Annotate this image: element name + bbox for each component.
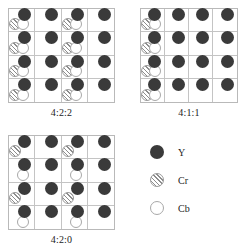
luma-sample-icon (172, 55, 185, 68)
luma-sample-icon (148, 78, 161, 91)
sample-cell (141, 56, 165, 79)
luma-sample-icon (98, 31, 111, 44)
sample-cell (9, 56, 35, 79)
legend: Y Cr Cb (150, 138, 190, 222)
luma-sample-icon (148, 8, 161, 21)
sampling-grid-422 (8, 8, 115, 103)
sample-cell (189, 79, 213, 102)
luma-sample-icon (18, 182, 31, 195)
luma-sample-icon (18, 78, 31, 91)
luma-sample-icon (172, 78, 185, 91)
legend-item-cr: Cr (150, 166, 190, 194)
panel-411: 4:1:1 (140, 8, 238, 103)
luma-sample-icon (18, 205, 31, 218)
sample-cell (88, 159, 114, 182)
luma-sample-icon (45, 135, 58, 148)
luma-sample-icon (221, 8, 234, 21)
luma-sample-icon (148, 31, 161, 44)
luma-sample-icon (18, 135, 31, 148)
luma-sample-icon (196, 55, 209, 68)
sample-cell (141, 79, 165, 102)
sample-cell (62, 159, 88, 182)
sample-cell (35, 56, 61, 79)
luma-sample-icon (221, 31, 234, 44)
sample-cell (88, 79, 114, 102)
sample-cell (213, 9, 237, 32)
sample-cell (88, 32, 114, 55)
luma-sample-icon (45, 31, 58, 44)
legend-label-y: Y (178, 147, 185, 158)
luma-sample-icon (71, 205, 84, 218)
luma-sample-icon (98, 135, 111, 148)
sample-cell (62, 56, 88, 79)
luma-sample-icon (71, 135, 84, 148)
sample-cell (189, 56, 213, 79)
sample-cell (189, 9, 213, 32)
sample-cell (35, 9, 61, 32)
luma-sample-icon (98, 205, 111, 218)
luma-sample-icon (45, 78, 58, 91)
luma-sample-icon (45, 205, 58, 218)
sample-cell (9, 136, 35, 159)
luma-sample-icon (71, 182, 84, 195)
legend-label-cr: Cr (178, 175, 188, 186)
sample-cell (62, 136, 88, 159)
sample-cell (213, 56, 237, 79)
sample-cell (165, 56, 189, 79)
luma-sample-icon (98, 55, 111, 68)
sample-cell (165, 32, 189, 55)
sample-cell (62, 9, 88, 32)
chroma-blue-sample-icon (70, 89, 82, 101)
chroma-blue-sample-icon (150, 201, 164, 215)
panel-420: 4:2:0 (8, 135, 115, 230)
luma-sample-icon (98, 78, 111, 91)
sample-cell (9, 183, 35, 206)
chroma-red-sample-icon (9, 145, 21, 157)
luma-sample-icon (148, 55, 161, 68)
luma-sample-icon (221, 55, 234, 68)
sample-cell (141, 9, 165, 32)
luma-sample-icon (196, 8, 209, 21)
sample-cell (35, 183, 61, 206)
sample-cell (213, 79, 237, 102)
chroma-red-sample-icon (9, 192, 21, 204)
sampling-grid-420 (8, 135, 115, 230)
luma-sample-icon (45, 8, 58, 21)
sample-cell (62, 79, 88, 102)
sample-cell (88, 56, 114, 79)
panel-422: 4:2:2 (8, 8, 115, 103)
sampling-grid-411 (140, 8, 238, 103)
sample-cell (189, 32, 213, 55)
luma-sample-icon (18, 8, 31, 21)
chroma-blue-sample-icon (17, 89, 29, 101)
sample-cell (9, 159, 35, 182)
sample-cell (35, 32, 61, 55)
luma-sample-icon (98, 182, 111, 195)
sample-cell (9, 9, 35, 32)
panel-caption-420: 4:2:0 (8, 234, 115, 243)
sample-cell (213, 32, 237, 55)
sample-cell (88, 9, 114, 32)
luma-sample-icon (18, 31, 31, 44)
sample-cell (165, 79, 189, 102)
legend-item-cb: Cb (150, 194, 190, 222)
luma-sample-icon (71, 8, 84, 21)
luma-sample-icon (172, 8, 185, 21)
luma-sample-icon (45, 158, 58, 171)
chroma-blue-sample-icon (17, 216, 29, 228)
luma-sample-icon (150, 145, 164, 159)
luma-sample-icon (98, 8, 111, 21)
sample-cell (35, 136, 61, 159)
chroma-blue-sample-icon (70, 216, 82, 228)
sample-cell (9, 32, 35, 55)
sample-cell (62, 183, 88, 206)
luma-sample-icon (71, 78, 84, 91)
sample-cell (62, 206, 88, 229)
sample-cell (35, 79, 61, 102)
sample-cell (9, 79, 35, 102)
chroma-blue-sample-icon (149, 89, 161, 101)
luma-sample-icon (196, 31, 209, 44)
luma-sample-icon (45, 182, 58, 195)
luma-sample-icon (71, 31, 84, 44)
luma-sample-icon (98, 158, 111, 171)
